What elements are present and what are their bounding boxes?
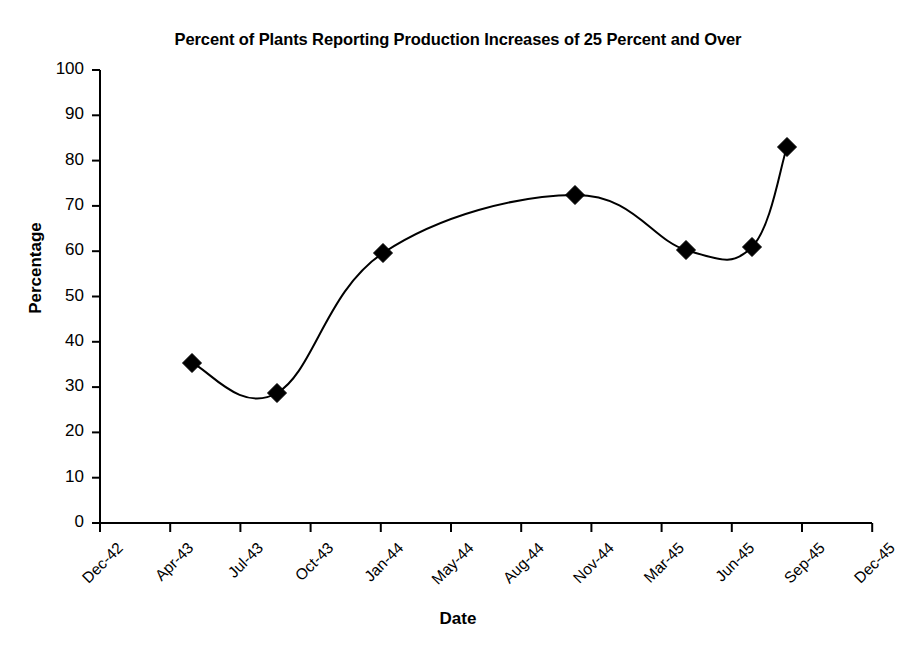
data-point-marker: Oct-44: 73 (566, 186, 585, 205)
y-axis-ticks (92, 70, 100, 523)
data-point-marker: Aug-45: 83 (778, 138, 797, 157)
chart-figure: Percent of Plants Reporting Production I… (0, 0, 916, 658)
data-point-marker: Feb-43: 36.5 (183, 354, 202, 373)
data-point-marker: Jan-44: 60 (374, 244, 393, 263)
plot-area: Feb-43: 36.5Aug-43: 29Jan-44: 60Oct-44: … (0, 0, 916, 658)
series-line (192, 147, 787, 399)
data-point-marker: Apr-45: 60.5 (677, 241, 696, 260)
series-markers: Feb-43: 36.5Aug-43: 29Jan-44: 60Oct-44: … (183, 138, 797, 403)
axes (92, 70, 872, 532)
data-point-marker: Aug-43: 29 (268, 384, 287, 403)
x-axis-ticks (100, 523, 872, 532)
